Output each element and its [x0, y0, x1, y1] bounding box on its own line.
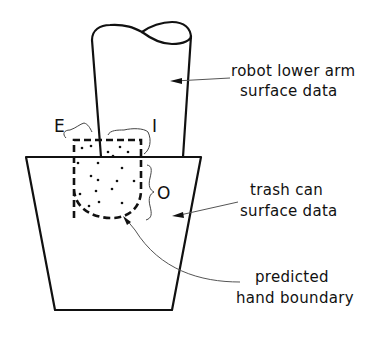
brace-e — [64, 123, 92, 138]
diagram-canvas: robot lower arm surface data E I O trash… — [0, 0, 378, 337]
region-o-label: O — [157, 185, 171, 202]
hand-label-line2: hand boundary — [236, 291, 354, 306]
arrow-arm-icon — [170, 78, 182, 84]
brace-i — [108, 129, 150, 154]
can-label-line1: trash can — [250, 183, 323, 198]
can-leader — [180, 202, 238, 215]
diagram-drawing — [0, 0, 378, 337]
brace-o — [146, 165, 154, 220]
arm-leader — [175, 78, 230, 81]
arrowheads — [123, 78, 184, 225]
region-i-label: I — [152, 118, 157, 135]
hand-label-line1: predicted — [255, 270, 329, 285]
arm-label-line1: robot lower arm — [231, 64, 355, 79]
robot-arm-shape — [92, 22, 191, 157]
arm-label-line2: surface data — [240, 84, 338, 99]
can-label-line2: surface data — [240, 204, 338, 219]
arrow-can-icon — [172, 212, 184, 218]
hand-surface-points — [77, 145, 136, 208]
trash-can-shape — [26, 157, 201, 310]
region-e-label: E — [54, 118, 65, 135]
